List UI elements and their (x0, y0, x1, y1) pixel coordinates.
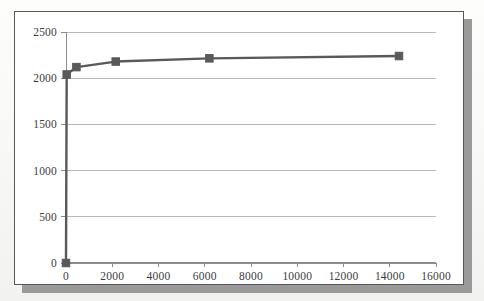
data-point-marker (63, 71, 71, 79)
data-point-marker (73, 63, 81, 71)
y-tick-label-0: 0 (51, 257, 57, 269)
y-tick-label-1500: 1500 (33, 118, 57, 130)
data-point-marker (395, 52, 403, 60)
x-tick-label-12000: 12000 (329, 270, 359, 282)
x-tick-label-14000: 14000 (375, 270, 405, 282)
y-tick-label-2500: 2500 (33, 26, 57, 38)
x-axis-ticks-group (66, 263, 436, 267)
chart-frame: 05001000150020002500 0200040006000800010… (14, 11, 464, 285)
data-point-marker (206, 55, 214, 63)
x-tick-label-0: 0 (63, 270, 69, 282)
x-tick-label-10000: 10000 (282, 270, 312, 282)
plot-wrapper: 05001000150020002500 0200040006000800010… (15, 12, 463, 284)
data-point-marker (62, 259, 70, 267)
x-tick-label-2000: 2000 (100, 270, 124, 282)
data-series-group (62, 52, 403, 266)
x-tick-label-8000: 8000 (239, 270, 263, 282)
y-axis-tick-labels: 05001000150020002500 (33, 26, 57, 269)
y-tick-label-1000: 1000 (33, 165, 57, 177)
data-point-marker (112, 58, 120, 66)
x-axis-tick-labels: 0200040006000800010000120001400016000 (63, 270, 451, 282)
x-tick-label-4000: 4000 (147, 270, 171, 282)
x-tick-label-6000: 6000 (193, 270, 217, 282)
gridlines-group (66, 32, 436, 217)
x-tick-label-16000: 16000 (421, 270, 451, 282)
line-chart: 05001000150020002500 0200040006000800010… (15, 12, 465, 286)
y-tick-label-2000: 2000 (33, 72, 57, 84)
y-tick-label-500: 500 (39, 211, 57, 223)
axis-lines-group (66, 32, 436, 263)
series-line-series-1 (66, 56, 399, 263)
